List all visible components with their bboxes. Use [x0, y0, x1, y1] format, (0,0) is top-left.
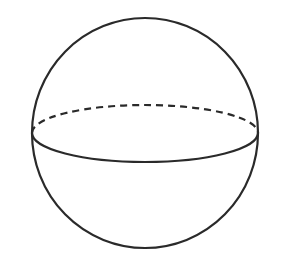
sphere-outline [32, 18, 258, 248]
equator-front-solid [32, 133, 258, 162]
sphere-diagram [0, 0, 281, 267]
equator-back-dashed [32, 105, 258, 133]
